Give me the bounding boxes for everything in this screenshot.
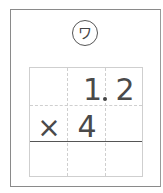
cell-r0c2: 2 bbox=[106, 68, 144, 105]
cell-r1c0: × bbox=[30, 105, 68, 142]
cell-r1c2 bbox=[106, 105, 144, 142]
decimal-point bbox=[103, 97, 107, 101]
calculation-grid: 1 2 × 4 bbox=[29, 67, 143, 177]
cell-r0c1: 1 bbox=[68, 68, 106, 105]
problem-label-circled: ワ bbox=[72, 20, 98, 46]
answer-cell-c0[interactable] bbox=[30, 142, 68, 179]
cell-r0c0 bbox=[30, 68, 68, 105]
answer-cell-c2[interactable] bbox=[106, 142, 144, 179]
answer-cell-c1[interactable] bbox=[68, 142, 106, 179]
cell-r1c1: 4 bbox=[68, 105, 106, 142]
problem-label: ワ bbox=[78, 26, 92, 40]
